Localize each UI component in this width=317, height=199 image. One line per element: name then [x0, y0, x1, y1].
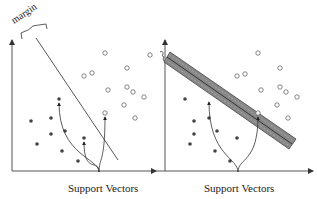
class-b-point: [284, 90, 288, 94]
class-b-point: [148, 53, 152, 57]
class-b-point: [259, 88, 263, 92]
class-b-point: [295, 95, 299, 99]
support-vector-arrow: [99, 117, 105, 172]
margin-brace: [21, 24, 47, 39]
class-b-point: [243, 72, 247, 76]
svm-margin-diagram: margin Support Vectors Support Vectors: [0, 0, 317, 199]
support-vector-arrow: [209, 102, 238, 172]
margin-label: margin: [9, 1, 38, 26]
data-points: [29, 51, 152, 163]
support-vector-arrow: [84, 142, 99, 172]
class-b-point: [122, 103, 126, 107]
class-b-point: [286, 116, 290, 120]
support-vector-arrows: [59, 103, 105, 172]
class-b-point: [106, 88, 110, 92]
class-a-point: [29, 119, 33, 123]
class-a-point: [183, 97, 187, 101]
panel-large-margin: Support Vectors: [155, 40, 313, 194]
class-a-point: [76, 159, 80, 163]
class-a-point: [49, 116, 53, 120]
class-b-point: [103, 111, 107, 115]
class-a-point: [82, 136, 86, 140]
class-b-point: [90, 71, 94, 75]
class-a-point: [215, 129, 219, 133]
margin-band: [164, 52, 296, 149]
class-a-point: [192, 132, 196, 136]
class-b-point: [131, 90, 135, 94]
class-a-point: [49, 132, 53, 136]
class-a-point: [213, 149, 217, 153]
panel-small-margin: margin Support Vectors: [9, 1, 156, 194]
class-b-point: [235, 74, 239, 78]
class-b-point: [256, 51, 260, 55]
class-b-point: [103, 51, 107, 55]
class-b-point: [125, 66, 129, 70]
class-a-point: [188, 142, 192, 146]
class-a-point: [60, 149, 64, 153]
class-b-point: [133, 116, 137, 120]
class-b-point: [125, 85, 129, 89]
class-a-point: [57, 97, 61, 101]
class-b-point: [278, 85, 282, 89]
support-vectors-caption: Support Vectors: [204, 182, 274, 194]
class-a-point: [35, 142, 39, 146]
class-b-point: [275, 103, 279, 107]
class-b-point: [256, 111, 260, 115]
class-b-point: [278, 66, 282, 70]
class-b-point: [82, 74, 86, 78]
class-a-point: [235, 136, 239, 140]
decision-boundary: [36, 38, 118, 160]
class-b-point: [142, 95, 146, 99]
margin-brace: [160, 51, 164, 61]
class-a-point: [192, 119, 196, 123]
support-vectors-caption: Support Vectors: [68, 182, 138, 194]
